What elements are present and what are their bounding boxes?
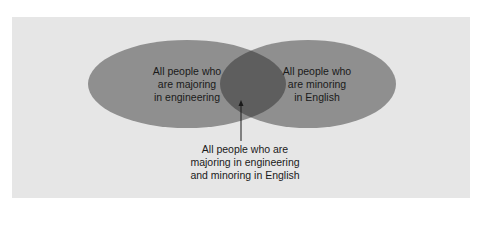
label-line: in engineering bbox=[132, 91, 242, 104]
intersection-label: All people who are majoring in engineeri… bbox=[165, 143, 325, 182]
label-line: All people who bbox=[262, 65, 372, 78]
label-line: are minoring bbox=[262, 78, 372, 91]
label-line: All people who bbox=[132, 65, 242, 78]
set-left-label: All people who are majoring in engineeri… bbox=[132, 65, 242, 104]
label-line: majoring in engineering bbox=[165, 156, 325, 169]
label-line: in English bbox=[262, 91, 372, 104]
label-line: All people who are bbox=[165, 143, 325, 156]
label-line: are majoring bbox=[132, 78, 242, 91]
label-line: and minoring in English bbox=[165, 169, 325, 182]
set-right-label: All people who are minoring in English bbox=[262, 65, 372, 104]
